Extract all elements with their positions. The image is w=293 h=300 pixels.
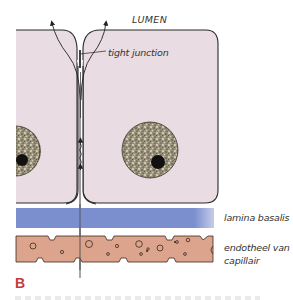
tight-junction-label: tight junction — [108, 47, 168, 58]
caption-text-fragment — [15, 296, 260, 300]
endothelium-label-line2: capillair — [224, 254, 290, 267]
lamina-basalis-label: lamina basalis — [224, 212, 289, 223]
lamina-basalis — [16, 208, 214, 228]
panel-label: B — [15, 275, 25, 291]
epithelial-cell-left — [16, 30, 77, 203]
nucleolus-right — [151, 155, 165, 169]
nucleolus-left — [16, 154, 28, 166]
lumen-label: LUMEN — [132, 14, 167, 25]
epithelium-diagram: LUMEN tight junction lamina basalis endo… — [0, 0, 293, 300]
endothelium-label-line1: endotheel van — [224, 241, 290, 254]
endothelium-label: endotheel van capillair — [224, 241, 290, 267]
capillary-endothelium — [16, 236, 213, 262]
nucleus-right — [122, 122, 178, 178]
